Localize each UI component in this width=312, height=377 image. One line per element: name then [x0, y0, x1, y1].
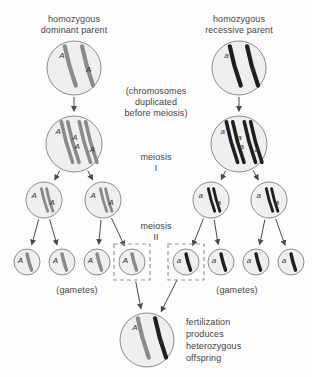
allele-label-a: a	[212, 256, 216, 265]
allele-label-a: A	[86, 65, 91, 74]
allele-label-a: A	[56, 127, 61, 136]
allele-label-a: A	[18, 256, 23, 265]
arrow-gamete-r-1-to-zygote-heterozygous	[161, 280, 177, 311]
allele-label-a: a	[274, 198, 278, 207]
allele-label-a: A	[49, 198, 54, 207]
label-chromosome-duplication-note: (chromosomes duplicated before meiosis)	[111, 86, 201, 119]
arrow-duplicated-dominant-to-meiosis1-dominant-right	[88, 171, 93, 180]
allele-label-a: a	[247, 256, 251, 265]
allele-label-a: A	[75, 142, 80, 151]
label-meiosis-two: meiosis II	[126, 221, 186, 243]
allele-label-a: a	[177, 256, 181, 265]
allele-label-a: A	[90, 145, 95, 154]
arrow-meiosis1-dominant-right-to-gamete-a-4	[111, 218, 124, 246]
allele-label-a: a	[224, 51, 228, 60]
allele-label-a: A	[132, 323, 137, 332]
cell-parent-aa-recessive	[212, 41, 266, 95]
arrow-meiosis1-recessive-right-to-gamete-r-4	[276, 219, 285, 245]
arrow-meiosis1-dominant-left-to-gamete-a-2	[50, 219, 57, 245]
allele-label-a: a	[256, 191, 260, 200]
arrow-meiosis1-dominant-left-to-gamete-a-1	[32, 219, 39, 244]
allele-label-a: a	[255, 145, 259, 154]
meiosis-fertilization-diagram: homozygous dominant parent homozygous re…	[0, 0, 312, 377]
cell-meiosis1-dominant-left	[26, 182, 62, 218]
cell-meiosis1-recessive-right	[251, 182, 287, 218]
label-meiosis-one: meiosis I	[126, 152, 186, 174]
label-fertilization-note: fertilization produces heterozygous offs…	[186, 316, 306, 364]
allele-label-a: A	[88, 256, 93, 265]
allele-label-a: a	[159, 337, 163, 346]
arrow-meiosis1-recessive-left-to-gamete-r-2	[214, 220, 218, 244]
allele-label-a: A	[59, 51, 64, 60]
selected-gamete-box	[114, 244, 150, 280]
generation-arrows	[32, 97, 285, 311]
selected-gamete-box	[168, 244, 204, 280]
allele-label-a: A	[108, 198, 113, 207]
allele-label-a: A	[53, 256, 58, 265]
cell-meiosis1-dominant-right	[85, 182, 121, 218]
arrow-meiosis1-dominant-right-to-gamete-a-3	[99, 220, 101, 244]
cell-parent-aa-dominant	[47, 41, 101, 95]
allele-label-a: A	[31, 191, 36, 200]
allele-label-a: A	[90, 191, 95, 200]
cell-zygote-heterozygous	[120, 313, 174, 367]
label-gametes-right: (gametes)	[197, 285, 277, 296]
allele-label-a: a	[216, 198, 220, 207]
arrow-meiosis1-recessive-right-to-gamete-r-3	[260, 220, 265, 245]
arrow-duplicated-recessive-to-meiosis1-recessive-right	[253, 170, 258, 179]
allele-label-a: a	[221, 127, 225, 136]
allele-label-a: a	[240, 142, 244, 151]
label-gametes-left: (gametes)	[37, 285, 117, 296]
allele-label-a: A	[123, 256, 128, 265]
allele-label-a: a	[198, 191, 202, 200]
label-homozygous-recessive-parent: homozygous recessive parent	[189, 14, 289, 36]
arrow-duplicated-recessive-to-meiosis1-recessive-left	[221, 171, 225, 180]
allele-label-a: a	[251, 65, 255, 74]
arrow-gamete-a-4-to-zygote-heterozygous	[136, 282, 141, 309]
label-homozygous-dominant-parent: homozygous dominant parent	[24, 14, 124, 36]
arrow-meiosis1-recessive-left-to-gamete-r-1	[193, 219, 204, 246]
arrow-duplicated-dominant-to-meiosis1-dominant-left	[55, 170, 60, 179]
allele-label-a: a	[282, 256, 286, 265]
cell-meiosis1-recessive-left	[193, 182, 229, 218]
